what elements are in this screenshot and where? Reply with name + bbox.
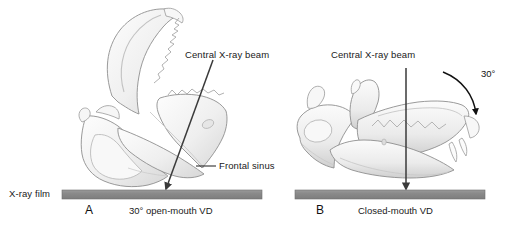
nasal-tip-b (464, 116, 479, 138)
radiography-positioning-figure: X-ray film Central X-ray beam Frontal si… (0, 0, 505, 225)
panel-a-frontal-sinus-label: Frontal sinus (219, 160, 275, 171)
incisor-tooth-b (459, 138, 467, 156)
panel-b-skull-illustration (297, 80, 479, 178)
canine-tooth-b (449, 142, 457, 162)
panel-b-caption: Closed-mouth VD (358, 205, 433, 216)
panel-a-letter: A (85, 203, 93, 217)
panel-a-skull-illustration (79, 8, 227, 186)
maxillary-tooth-row (168, 89, 224, 95)
panel-b-letter: B (316, 203, 324, 217)
panel-a-central-beam-label: Central X-ray beam (185, 49, 269, 60)
panel-b-xray-film-bar (295, 190, 485, 199)
panel-b-central-beam-label: Central X-ray beam (331, 49, 415, 60)
infraorbital-foramen-b (382, 139, 386, 145)
panel-a-xray-film-bar (62, 190, 262, 199)
xray-film-label: X-ray film (9, 188, 50, 199)
figure-illustration-layer (0, 0, 505, 225)
panel-b-angle-label: 30° (481, 68, 495, 79)
panel-a-caption: 30° open-mouth VD (129, 205, 213, 216)
